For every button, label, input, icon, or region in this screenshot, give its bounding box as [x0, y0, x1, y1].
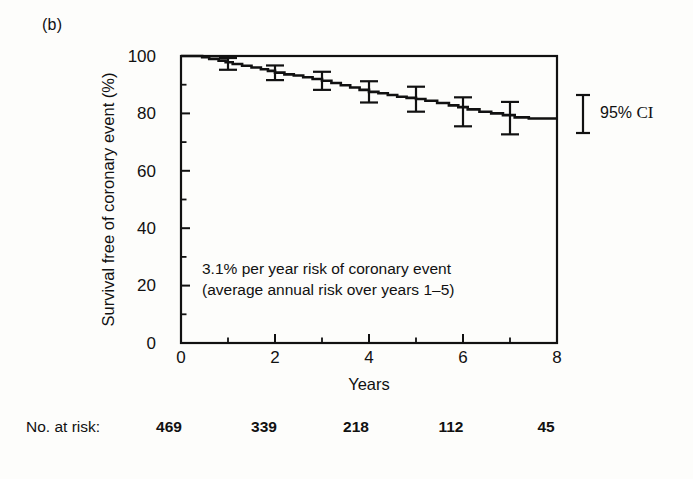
figure-panel: (b) Survival free of coronary event (%) … — [0, 0, 693, 479]
error-bar-year-6 — [454, 97, 472, 126]
axis-ticks — [181, 56, 510, 343]
legend-error-bar-symbol — [576, 95, 590, 133]
chart-plot-area — [0, 0, 693, 479]
